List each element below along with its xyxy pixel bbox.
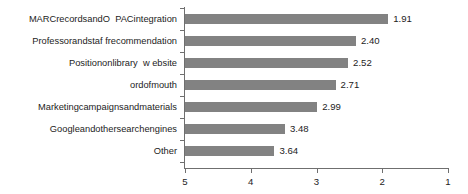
bar-value-label: 2.71: [341, 78, 360, 91]
category-label: ordofmouth: [130, 74, 177, 96]
y-axis-tick: [180, 52, 185, 53]
plot-area: 1.912.402.522.712.993.483.64: [185, 8, 448, 168]
y-axis-tick: [180, 96, 185, 97]
bar-row: 2.52: [185, 52, 448, 74]
bar-row: 1.91: [185, 8, 448, 30]
y-axis-tick: [180, 162, 185, 163]
bar-row: 2.71: [185, 74, 448, 96]
category-label: Marketingcampaignsandmaterials: [38, 96, 177, 118]
x-axis-tick: [185, 168, 186, 173]
y-axis-tick: [180, 30, 185, 31]
y-axis-tick: [180, 118, 185, 119]
bar-row: 3.64: [185, 140, 448, 162]
y-axis-line: [184, 7, 185, 169]
bar-row: 3.48: [185, 118, 448, 140]
x-axis-tick: [382, 168, 383, 173]
x-axis-tick-label: 4: [241, 175, 261, 188]
bar-value-label: 2.40: [361, 34, 380, 47]
bar: [185, 36, 356, 46]
category-label: Professorandstaf frecommendation: [32, 30, 177, 52]
bar-value-label: 3.48: [290, 122, 309, 135]
y-axis-tick: [180, 8, 185, 9]
x-axis-tick-label: 3: [307, 175, 327, 188]
bar-chart: MARCrecordsandO PACintegrationProfessora…: [0, 0, 468, 194]
bar-value-label: 1.91: [393, 12, 412, 25]
bar: [185, 146, 274, 156]
x-axis-tick: [448, 168, 449, 173]
x-axis-tick-label: 1: [438, 175, 458, 188]
x-axis-tick-label: 2: [372, 175, 392, 188]
category-label: MARCrecordsandO PACintegration: [29, 8, 177, 30]
bar: [185, 58, 348, 68]
bar: [185, 102, 317, 112]
x-axis-tick: [251, 168, 252, 173]
category-label: Googleandothersearchengines: [50, 118, 177, 140]
category-axis-labels: MARCrecordsandO PACintegrationProfessora…: [0, 8, 181, 168]
bar: [185, 14, 388, 24]
y-axis-tick: [180, 74, 185, 75]
bar-value-label: 2.52: [353, 56, 372, 69]
bar-value-label: 2.99: [322, 100, 341, 113]
x-axis-tick: [317, 168, 318, 173]
y-axis-tick: [180, 140, 185, 141]
bar-row: 2.99: [185, 96, 448, 118]
category-label: Other: [154, 140, 177, 162]
bar: [185, 124, 285, 134]
bar-value-label: 3.64: [279, 144, 298, 157]
bar: [185, 80, 336, 90]
bar-row: 2.40: [185, 30, 448, 52]
category-label: Positiononlibrary w ebsite: [69, 52, 177, 74]
x-axis-tick-label: 5: [175, 175, 195, 188]
